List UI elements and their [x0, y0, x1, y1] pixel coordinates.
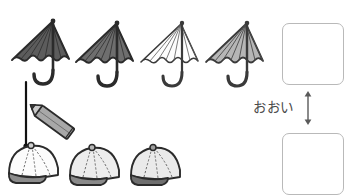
umbrella-row — [0, 12, 270, 102]
umbrella-item-1[interactable] — [8, 14, 76, 92]
umbrella-item-4[interactable] — [202, 16, 270, 94]
baseball-cap-icon — [9, 143, 58, 184]
cap-row — [0, 133, 220, 181]
worksheet-canvas: おおい — [0, 0, 320, 181]
cap-item-1[interactable] — [6, 138, 72, 186]
baseball-cap-icon — [70, 145, 119, 186]
umbrella-icon — [76, 21, 133, 86]
umbrella-icon — [12, 19, 69, 84]
comparison-label: おおい — [253, 101, 294, 115]
double-arrow-vertical — [301, 90, 315, 126]
answer-box-bottom[interactable] — [282, 133, 344, 195]
umbrella-icon — [141, 21, 198, 86]
baseball-cap-icon — [131, 145, 180, 186]
cap-item-3[interactable] — [128, 140, 194, 188]
umbrella-item-2[interactable] — [72, 16, 140, 94]
umbrella-item-3[interactable] — [137, 16, 205, 94]
cap-item-2[interactable] — [67, 140, 133, 188]
umbrella-icon — [206, 21, 263, 86]
answer-box-top[interactable] — [282, 23, 344, 85]
